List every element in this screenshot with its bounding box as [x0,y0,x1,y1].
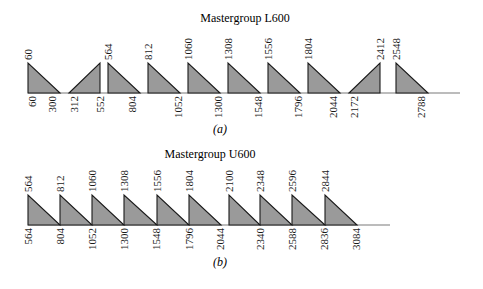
bottom-frequency-label: 300 [46,96,58,113]
bottom-frequency-label: 2836 [318,228,330,251]
bottom-frequency-label: 804 [54,228,66,245]
bottom-frequency-label: 564 [22,228,34,245]
triangle-group: 5645648128041060105213081300155615481804… [22,170,390,251]
top-frequency-label: 1308 [222,38,234,61]
top-frequency-label: 564 [22,175,34,192]
bottom-frequency-label: 552 [94,96,106,113]
top-frequency-label: 2412 [374,38,386,60]
top-frequency-label: 1804 [183,170,195,193]
top-frequency-label: 2548 [390,38,402,61]
top-frequency-label: 1804 [302,38,314,61]
bottom-frequency-label: 3084 [350,228,362,251]
spectrum-triangle [260,195,292,225]
spectrum-triangle [92,195,124,225]
spectrum-triangle [148,63,180,93]
spectrum-triangle [157,195,189,225]
top-frequency-label: 1556 [151,170,163,193]
spectrum-triangle [108,63,140,93]
spectrum-triangle [308,63,340,93]
top-frequency-label: 564 [102,43,114,60]
triangle-group: 6060300312552564804812105210601300130815… [22,38,460,119]
bottom-frequency-label: 2788 [415,96,427,119]
bottom-frequency-label: 1300 [118,228,130,251]
spectrum-triangle [229,195,260,225]
spectrum-triangle [69,63,100,93]
spectrum-triangle [189,195,221,225]
top-frequency-label: 1060 [182,38,194,61]
top-frequency-label: 2100 [223,170,235,193]
bottom-frequency-label: 804 [126,96,138,113]
top-frequency-label: 812 [142,44,154,61]
panel-title: Mastergroup U600 [165,147,256,161]
bottom-frequency-label: 1052 [172,96,184,118]
bottom-frequency-label: 312 [68,96,80,113]
bottom-frequency-label: 1052 [86,228,98,250]
bottom-frequency-label: 2172 [348,96,360,118]
top-frequency-label: 1060 [86,170,98,193]
panel-caption: (a) [213,122,227,136]
bottom-frequency-label: 1796 [292,96,304,119]
bottom-frequency-label: 1548 [150,228,162,251]
top-frequency-label: 1308 [118,170,130,193]
spectrum-triangle [124,195,157,225]
top-frequency-label: 2596 [286,170,298,193]
mastergroup-diagram: Mastergroup L600 60603003125525648048121… [0,0,483,289]
top-frequency-label: 1556 [262,38,274,61]
spectrum-triangle [292,195,325,225]
top-frequency-label: 60 [22,49,34,61]
bottom-frequency-label: 1300 [212,96,224,119]
bottom-frequency-label: 1796 [183,228,195,251]
bottom-frequency-label: 60 [26,96,38,108]
panel-title: Mastergroup L600 [200,11,289,25]
spectrum-triangle [60,195,92,225]
bottom-frequency-label: 2340 [254,228,266,251]
spectrum-triangle [268,63,300,93]
panel-mastergroup-u600: Mastergroup U600 56456481280410601052130… [22,147,390,269]
spectrum-triangle [28,195,60,225]
spectrum-triangle [228,63,260,93]
spectrum-triangle [28,63,60,93]
bottom-frequency-label: 2044 [214,228,226,251]
bottom-frequency-label: 2044 [327,96,339,119]
spectrum-triangle [349,63,380,93]
top-frequency-label: 2348 [254,170,266,193]
top-frequency-label: 2844 [319,170,331,193]
panel-mastergroup-l600: Mastergroup L600 60603003125525648048121… [22,11,460,136]
spectrum-triangle [325,195,357,225]
spectrum-triangle [188,63,220,93]
spectrum-triangle [396,63,428,93]
bottom-frequency-label: 1548 [252,96,264,119]
panel-caption: (b) [213,255,227,269]
bottom-frequency-label: 2588 [286,228,298,251]
top-frequency-label: 812 [54,176,66,193]
